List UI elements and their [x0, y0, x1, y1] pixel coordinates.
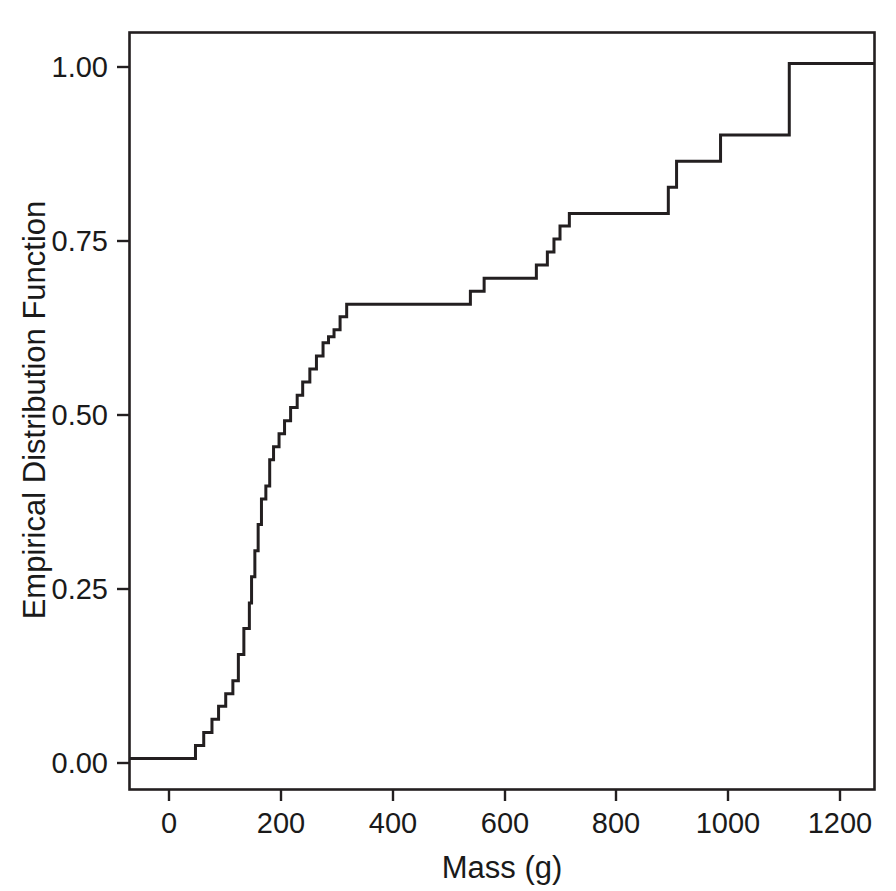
x-axis-tick-labels: 0 200 400 600 800 1000 1200	[161, 807, 872, 839]
x-tick-label-400: 400	[369, 807, 417, 839]
y-tick-label-0.50: 0.50	[52, 399, 108, 431]
ecdf-step-line	[130, 63, 875, 758]
plot-canvas: 1.00 0.75 0.50 0.25 0.00 0 200 400 600 8…	[0, 0, 896, 891]
y-tick-label-0.25: 0.25	[52, 573, 108, 605]
plot-frame	[130, 33, 875, 790]
x-tick-label-200: 200	[257, 807, 305, 839]
x-axis-title: Mass (g)	[442, 850, 563, 885]
x-tick-label-1000: 1000	[696, 807, 761, 839]
y-axis-ticks	[117, 67, 129, 763]
x-tick-label-1200: 1200	[808, 807, 873, 839]
y-tick-label-0.75: 0.75	[52, 225, 108, 257]
y-axis-tick-labels: 1.00 0.75 0.50 0.25 0.00	[52, 51, 108, 779]
x-tick-label-800: 800	[592, 807, 640, 839]
y-tick-label-0.00: 0.00	[52, 747, 108, 779]
y-axis-title: Empirical Distribution Function	[17, 201, 52, 620]
y-tick-label-1.00: 1.00	[52, 51, 108, 83]
x-tick-label-600: 600	[481, 807, 529, 839]
ecdf-figure: 1.00 0.75 0.50 0.25 0.00 0 200 400 600 8…	[0, 0, 896, 891]
x-tick-label-0: 0	[161, 807, 177, 839]
